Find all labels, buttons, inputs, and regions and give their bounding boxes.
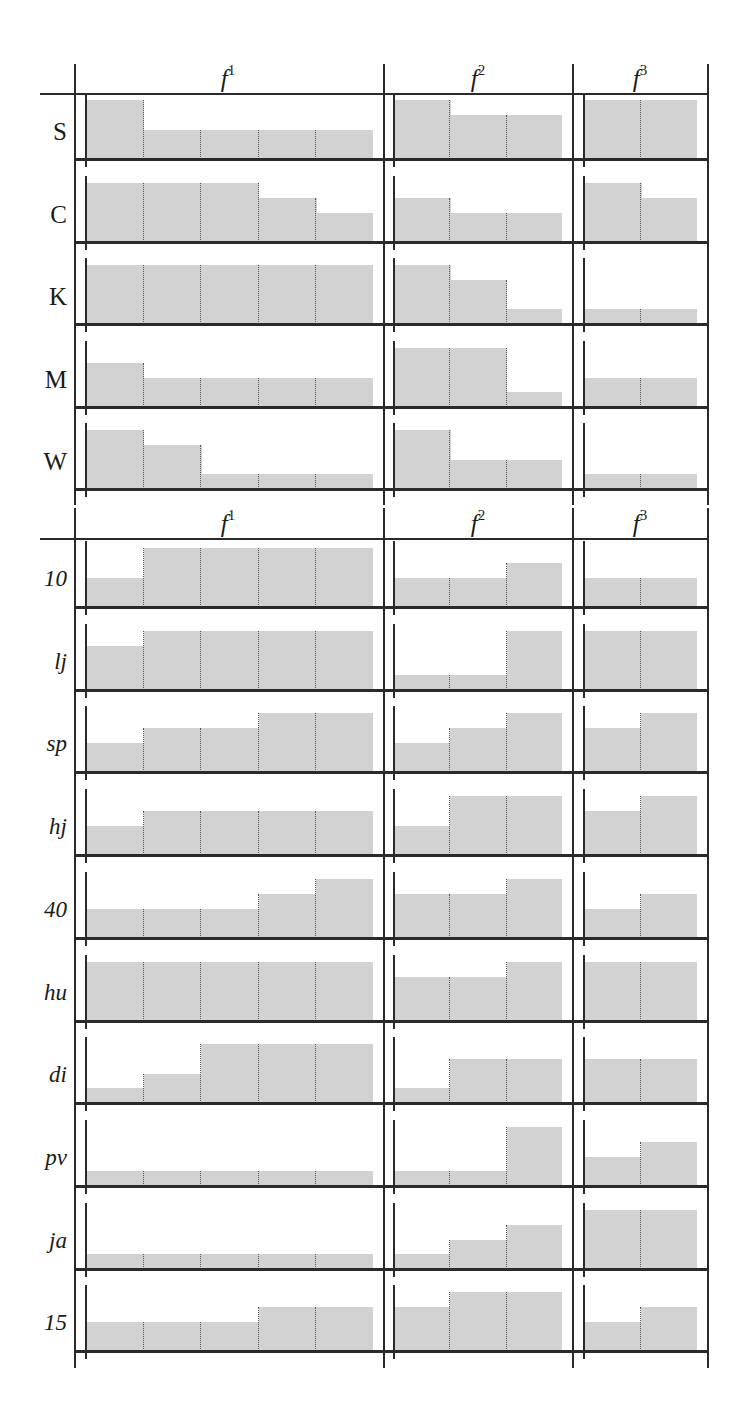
- bin-separator: [200, 130, 201, 160]
- histogram-bar: [507, 631, 562, 690]
- bin-separator: [143, 265, 144, 324]
- histogram-bar: [86, 1171, 144, 1186]
- histogram-bar: [201, 265, 259, 324]
- histogram-bar: [450, 728, 507, 772]
- y-axis-line: [85, 93, 87, 167]
- header-rule: [40, 538, 708, 540]
- column-divider-line: [572, 64, 574, 505]
- y-axis-line: [393, 1203, 395, 1277]
- x-axis-line: [573, 689, 709, 692]
- histogram-bar: [201, 909, 259, 939]
- x-axis-line: [383, 323, 574, 326]
- x-axis-line: [383, 854, 574, 857]
- histogram-bar: [201, 130, 259, 160]
- histogram-bar: [86, 578, 144, 608]
- histogram-bar: [394, 1307, 451, 1351]
- histogram-cell-f3: [583, 341, 697, 407]
- histogram-cell-f3: [583, 93, 697, 159]
- histogram-bar: [641, 962, 697, 1021]
- row-label: 10: [7, 567, 67, 590]
- bin-separator: [449, 100, 450, 159]
- histogram-bar: [641, 198, 697, 242]
- x-axis-line: [383, 937, 574, 940]
- x-axis-line: [573, 323, 709, 326]
- column-header-f2: f2: [471, 511, 485, 536]
- bin-separator: [506, 713, 507, 772]
- bin-separator: [315, 1307, 316, 1351]
- bin-separator: [640, 474, 641, 489]
- bin-separator: [506, 1059, 507, 1103]
- bin-separator: [200, 631, 201, 690]
- column-header-f3: f3: [633, 66, 647, 91]
- x-axis-line: [75, 488, 385, 491]
- bin-separator: [315, 879, 316, 938]
- bin-separator: [449, 348, 450, 407]
- histogram-bar: [450, 1171, 507, 1186]
- histogram-bar: [259, 265, 317, 324]
- histogram-bar: [450, 1240, 507, 1270]
- x-axis-line: [383, 689, 574, 692]
- histogram-cell-f1: [85, 1037, 373, 1103]
- x-axis-line: [383, 1185, 574, 1188]
- bin-separator: [506, 879, 507, 938]
- histogram-cell-f2: [393, 624, 562, 690]
- histogram-cell-f3: [583, 541, 697, 607]
- histogram-bar: [86, 1322, 144, 1352]
- row-label: ja: [7, 1229, 67, 1252]
- bin-separator: [640, 1307, 641, 1351]
- histogram-bar: [641, 796, 697, 855]
- bin-separator: [143, 962, 144, 1021]
- y-axis-line: [393, 93, 395, 167]
- histogram-bar: [641, 100, 697, 159]
- bin-separator: [640, 309, 641, 324]
- bin-separator: [143, 909, 144, 939]
- bin-separator: [315, 1044, 316, 1103]
- x-axis-line: [75, 158, 385, 161]
- bin-separator: [506, 460, 507, 490]
- bin-separator: [200, 265, 201, 324]
- histogram-bar: [201, 1254, 259, 1269]
- bin-separator: [506, 348, 507, 407]
- bin-separator: [143, 1171, 144, 1186]
- y-axis-line: [85, 624, 87, 698]
- histogram-cell-f2: [393, 1203, 562, 1269]
- x-axis-line: [75, 689, 385, 692]
- column-header-f1: f1: [221, 511, 235, 536]
- bin-separator: [449, 265, 450, 324]
- y-axis-line: [583, 423, 585, 497]
- histogram-bar: [316, 265, 373, 324]
- bin-separator: [258, 130, 259, 160]
- bin-separator: [258, 1044, 259, 1103]
- row-label: W: [7, 449, 67, 474]
- x-axis-line: [573, 1268, 709, 1271]
- column-header-superscript: 1: [228, 507, 236, 523]
- bin-separator: [258, 183, 259, 242]
- histogram-bar: [507, 309, 562, 324]
- row-label: S: [7, 119, 67, 144]
- y-axis-line: [85, 258, 87, 332]
- bin-separator: [315, 378, 316, 408]
- histogram-bar: [86, 743, 144, 773]
- histogram-bar: [316, 548, 373, 607]
- y-axis-line: [583, 1285, 585, 1359]
- bin-separator: [640, 713, 641, 772]
- histogram-bar: [507, 796, 562, 855]
- bin-separator: [258, 378, 259, 408]
- histogram-cell-f1: [85, 955, 373, 1021]
- x-axis-line: [573, 488, 709, 491]
- bin-separator: [143, 430, 144, 489]
- histogram-cell-f3: [583, 1120, 697, 1186]
- row-label: K: [7, 284, 67, 309]
- bin-separator: [506, 631, 507, 690]
- bin-separator: [506, 962, 507, 1021]
- y-axis-line: [583, 541, 585, 615]
- row-label: sp: [7, 732, 67, 755]
- y-axis-line: [393, 541, 395, 615]
- histogram-cell-f2: [393, 789, 562, 855]
- bin-separator: [143, 1322, 144, 1352]
- histogram-bar: [507, 460, 562, 490]
- histogram-bar: [507, 1292, 562, 1351]
- row-label: hu: [7, 981, 67, 1004]
- histogram-cell-f2: [393, 1037, 562, 1103]
- histogram-cell-f3: [583, 706, 697, 772]
